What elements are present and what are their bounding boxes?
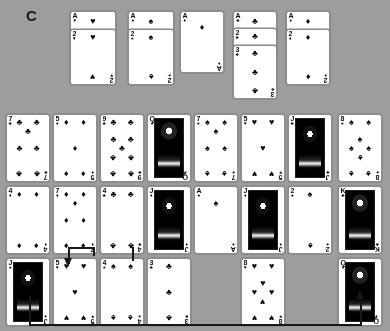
card-corner-rank-suit: 4♣ bbox=[103, 188, 107, 198]
card-8-of-spades[interactable]: 8♠8♠♠♠♠♠♠♠♠♠ bbox=[338, 114, 382, 182]
card-pip: ♦ bbox=[81, 190, 86, 199]
card-3-of-clubs[interactable]: 3♣3♣♣♣♣ bbox=[147, 258, 191, 326]
card-corner-rank-suit: A♠ bbox=[231, 242, 236, 252]
card-pip-layout: ♥♥♥♥♥ bbox=[250, 118, 276, 178]
card-pip: ♣ bbox=[34, 169, 40, 178]
card-pip: ♣ bbox=[34, 118, 40, 127]
card-pip: ♠ bbox=[222, 118, 227, 127]
court-card-artwork bbox=[154, 190, 184, 250]
card-4-of-diamonds[interactable]: 4♦4♦♦♦♦♦ bbox=[6, 186, 50, 254]
card-pip: ♠ bbox=[111, 262, 116, 271]
card-pip: ♣ bbox=[16, 144, 22, 153]
card-7-of-diamonds[interactable]: 7♦7♦♦♦♦♦♦♦♦ bbox=[53, 186, 97, 254]
card-pip: ♠ bbox=[308, 241, 313, 250]
card-7-of-clubs[interactable]: 7♣7♣♣♣♣♣♣♣♣ bbox=[6, 114, 50, 182]
card-corner-rank-suit: 2♥ bbox=[110, 73, 114, 83]
foundation-pile-5[interactable]: A♦A♦♦2♦2♦♦♦ bbox=[286, 11, 330, 85]
card-corner-rank-suit: J♦ bbox=[279, 242, 283, 252]
card-corner-rank-suit: 2♠ bbox=[291, 188, 295, 198]
card-corner-rank-suit: 7♠ bbox=[232, 170, 236, 180]
card-7-of-spades[interactable]: 7♠7♠♠♠♠♠♠♠♠ bbox=[194, 114, 238, 182]
card-corner-rank-suit: 7♦ bbox=[56, 188, 60, 198]
card-pip: ♠ bbox=[149, 72, 154, 81]
card-J-of-clubs[interactable]: J♣J♣ bbox=[288, 114, 332, 182]
foundation-pile-1[interactable]: A♥A♥♥2♥2♥♥♥ bbox=[70, 11, 116, 85]
card-corner-rank-suit: 2♦ bbox=[324, 73, 328, 83]
card-pip: ♦ bbox=[64, 169, 69, 178]
card-pip: ♥ bbox=[81, 262, 86, 271]
card-corner-rank-suit: 2♠ bbox=[326, 242, 330, 252]
card-pip: ♦ bbox=[81, 241, 86, 250]
card-pip-layout: ♣♣♣♣♣♣♣♣♣ bbox=[109, 118, 135, 178]
card-pip-layout: ♦ bbox=[189, 15, 215, 69]
card-pip: ♠ bbox=[358, 135, 363, 144]
card-2-of-spades[interactable]: 2♠2♠♠♠ bbox=[288, 186, 332, 254]
card-corner-rank-suit: J♣ bbox=[326, 170, 330, 180]
card-pip: ♦ bbox=[34, 190, 39, 199]
card-pip: ♣ bbox=[110, 241, 116, 250]
card-pip: ♥ bbox=[72, 288, 77, 297]
card-pip: ♠ bbox=[308, 190, 313, 199]
card-corner-rank-suit: 9♣ bbox=[138, 170, 142, 180]
card-J-of-diamonds[interactable]: J♦J♦ bbox=[241, 186, 285, 254]
card-pip: ♣ bbox=[252, 32, 258, 41]
card-pip-layout: ♣♣♣♣♣♣♣ bbox=[15, 118, 41, 178]
card-corner-rank-suit: A♥ bbox=[73, 13, 78, 23]
court-card-artwork bbox=[248, 190, 278, 250]
card-K-of-clubs[interactable]: K♣K♣ bbox=[338, 186, 382, 254]
card-2-of-spades[interactable]: 2♠2♠♠♠ bbox=[128, 29, 174, 85]
card-pip: ♦ bbox=[81, 169, 86, 178]
court-card-artwork bbox=[13, 262, 43, 322]
card-2-of-hearts[interactable]: 2♥2♥♥♥ bbox=[70, 29, 116, 85]
card-pip: ♣ bbox=[16, 118, 22, 127]
card-4-of-spades[interactable]: 4♠4♠♠♠♠♠ bbox=[100, 258, 144, 326]
card-pip-layout: ♦♦♦♦♦ bbox=[62, 118, 88, 178]
foundation-pile-4[interactable]: A♣A♣♣2♣2♣♣♣3♣3♣♣♣♣ bbox=[233, 11, 277, 99]
card-2-of-diamonds[interactable]: 2♦2♦♦♦ bbox=[286, 29, 330, 85]
card-3-of-clubs[interactable]: 3♣3♣♣♣♣ bbox=[233, 45, 277, 99]
card-pip: ♣ bbox=[16, 169, 22, 178]
card-J-of-diamonds[interactable]: J♦J♦ bbox=[147, 186, 191, 254]
card-5-of-hearts[interactable]: 5♥5♥♥♥♥♥♥ bbox=[53, 258, 97, 326]
card-pip-layout: ♣♣♣ bbox=[242, 49, 268, 95]
card-A-of-diamonds[interactable]: A♦A♦♦ bbox=[180, 11, 224, 73]
card-Q-of-spades[interactable]: Q♠Q♠ bbox=[147, 114, 191, 182]
card-corner-rank-suit: A♦ bbox=[217, 61, 222, 71]
annotation-arrow-down-to-five-hearts bbox=[64, 258, 72, 267]
foundation-pile-2[interactable]: A♠A♠♠2♠2♠♠♠ bbox=[128, 11, 174, 85]
card-corner-rank-suit: 5♦ bbox=[56, 116, 60, 126]
card-pip: ♠ bbox=[349, 169, 354, 178]
card-pip: ♥ bbox=[252, 313, 257, 322]
card-corner-rank-suit: 3♣ bbox=[271, 87, 275, 97]
card-A-of-spades[interactable]: A♠A♠♠ bbox=[194, 186, 238, 254]
card-9-of-clubs[interactable]: 9♣9♣♣♣♣♣♣♣♣♣♣ bbox=[100, 114, 144, 182]
card-corner-rank-suit: 8♥ bbox=[279, 314, 283, 324]
annotation-arrow-up-to-queen bbox=[356, 290, 364, 299]
card-pip-layout: ♠♠♠♠♠♠♠ bbox=[203, 118, 229, 178]
card-pip: ♣ bbox=[128, 135, 134, 144]
card-5-of-hearts[interactable]: 5♥5♥♥♥♥♥♥ bbox=[241, 114, 285, 182]
annotation-line-horizontal bbox=[29, 324, 362, 326]
card-4-of-clubs[interactable]: 4♣4♣♣♣♣♣ bbox=[100, 186, 144, 254]
annotation-line-horizontal-drop bbox=[68, 247, 94, 249]
card-pip-layout: ♦♦♦♦ bbox=[15, 190, 41, 250]
card-pip: ♥ bbox=[90, 33, 95, 42]
card-5-of-diamonds[interactable]: 5♦5♦♦♦♦♦♦ bbox=[53, 114, 97, 182]
card-corner-rank-suit: Q♦ bbox=[374, 314, 379, 324]
card-corner-rank-suit: 2♦ bbox=[289, 31, 293, 41]
card-pip: ♣ bbox=[110, 135, 116, 144]
card-pip: ♠ bbox=[222, 144, 227, 153]
card-pip: ♠ bbox=[205, 169, 210, 178]
foundation-pile-3[interactable]: A♦A♦♦ bbox=[180, 11, 224, 73]
card-pip: ♦ bbox=[34, 241, 39, 250]
card-pip: ♥ bbox=[252, 262, 257, 271]
card-pip: ♥ bbox=[64, 313, 69, 322]
card-J-of-spades[interactable]: J♠J♠ bbox=[6, 258, 50, 326]
card-8-of-hearts[interactable]: 8♥8♥♥♥♥♥♥♥♥♥ bbox=[241, 258, 285, 326]
annotation-line-vertical-left bbox=[29, 296, 31, 325]
card-corner-rank-suit: 3♣ bbox=[150, 260, 154, 270]
card-pip: ♣ bbox=[25, 127, 31, 136]
card-corner-rank-suit: 7♣ bbox=[44, 170, 48, 180]
card-pip: ♦ bbox=[64, 118, 69, 127]
annotation-line-vertical-drop2 bbox=[93, 247, 95, 256]
